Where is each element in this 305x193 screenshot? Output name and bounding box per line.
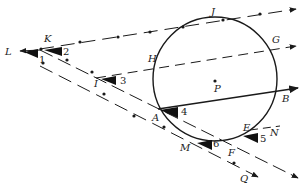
angle-2-label: 2	[63, 46, 69, 57]
angle-6-label: 6	[213, 138, 219, 149]
label-B: B	[281, 93, 289, 104]
angle-5-marker	[243, 133, 258, 143]
geometry-diagram: L K J G H I P B A E N M F Q 1 2 3 4 5 6	[0, 0, 305, 193]
angle-6-marker	[197, 140, 212, 150]
angle-5-label: 5	[260, 133, 266, 144]
label-E: E	[242, 122, 251, 133]
line-ihg-secant	[96, 46, 296, 78]
label-Q: Q	[240, 173, 248, 184]
label-F: F	[227, 147, 236, 158]
label-H: H	[147, 53, 157, 64]
diagram-canvas: L K J G H I P B A E N M F Q 1 2 3 4 5 6	[0, 0, 305, 193]
label-P: P	[213, 83, 221, 94]
label-N: N	[269, 127, 280, 138]
angle-1-label: 1	[39, 54, 45, 65]
line-lmq-tangent	[40, 66, 258, 177]
label-M: M	[179, 142, 191, 153]
label-J: J	[209, 6, 216, 17]
angle-3-marker	[101, 76, 116, 85]
line-kj-tangent	[40, 9, 296, 49]
label-G: G	[272, 34, 280, 45]
label-L: L	[4, 46, 12, 57]
circle-p	[153, 17, 277, 141]
point-dots	[39, 12, 261, 164]
label-K: K	[43, 33, 52, 44]
label-I: I	[93, 78, 99, 89]
line-ab-chord	[158, 88, 298, 109]
angle-4-label: 4	[181, 106, 187, 117]
label-A: A	[151, 112, 159, 123]
angle-3-label: 3	[120, 75, 126, 86]
